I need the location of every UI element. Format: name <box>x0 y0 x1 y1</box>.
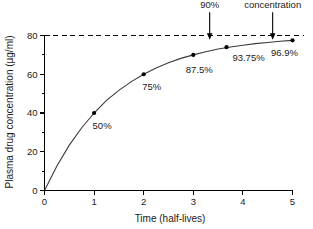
y-tick-label: 40 <box>27 107 38 118</box>
data-point-labels: 50%75%87.5%93.75%96.9% <box>93 47 299 131</box>
y-tick-label: 0 <box>32 185 37 196</box>
y-axis-tick-labels: 020406080 <box>27 30 38 196</box>
x-axis-title: Time (half-lives) <box>135 213 206 224</box>
x-tick-label: 0 <box>42 196 47 207</box>
data-point-label: 87.5% <box>186 64 213 75</box>
y-axis-title: Plasma drug concentration (µg/ml) <box>4 35 15 188</box>
data-point-label: 96.9% <box>271 47 298 58</box>
annotation-arrow-head <box>207 33 213 39</box>
pharmacokinetics-chart: Plasma drug concentration (µg/ml) Time (… <box>0 0 313 229</box>
y-tick-label: 80 <box>27 30 38 41</box>
data-point-markers <box>92 38 295 115</box>
data-point-marker <box>224 45 228 49</box>
annotation-steady-state: Steady-stateconcentration <box>244 0 301 40</box>
annotation-arrow-head <box>270 33 276 39</box>
x-tick-label: 4 <box>240 196 245 207</box>
data-point-label: 50% <box>93 120 113 131</box>
data-point-marker <box>191 53 195 57</box>
x-tick-label: 2 <box>141 196 146 207</box>
data-point-marker <box>92 111 96 115</box>
annotation-label: 90% <box>200 0 220 10</box>
annotation-ninety-percent: 90% <box>200 0 220 40</box>
chart-annotations: 90%Steady-stateconcentration <box>200 0 301 40</box>
chart-figure: Plasma drug concentration (µg/ml) Time (… <box>0 0 313 229</box>
x-axis-ticks <box>45 191 293 196</box>
data-point-marker <box>290 38 294 42</box>
x-tick-label: 3 <box>191 196 196 207</box>
x-tick-label: 5 <box>290 196 295 207</box>
data-point-marker <box>142 72 146 76</box>
data-point-label: 75% <box>142 81 162 92</box>
x-tick-label: 1 <box>91 196 96 207</box>
y-tick-label: 20 <box>27 146 38 157</box>
y-tick-label: 60 <box>27 69 38 80</box>
data-point-label: 93.75% <box>232 52 265 63</box>
y-axis-ticks <box>40 36 45 191</box>
x-axis-tick-labels: 012345 <box>42 196 295 207</box>
annotation-label: concentration <box>244 0 301 10</box>
